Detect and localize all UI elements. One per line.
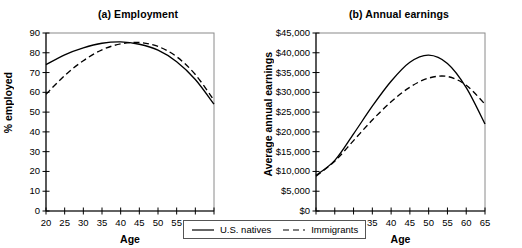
legend-entry-us-natives: U.S. natives (191, 225, 271, 235)
panel-b-y-tick-label: $30,000 (258, 88, 310, 98)
panel-b-y-tick-label: $45,000 (258, 28, 310, 38)
panel-a-x-tick-label: 45 (134, 218, 145, 228)
panel-b-x-tick-label: 60 (461, 218, 472, 228)
legend-entry-immigrants: Immigrants (282, 225, 358, 235)
panel-a-y-tick-label: 70 (0, 68, 40, 78)
panel-b-y-tick-label: $15,000 (258, 147, 310, 157)
panel-b-y-tick-label: $35,000 (258, 68, 310, 78)
panel-a-x-tick-label: 20 (41, 218, 52, 228)
legend-label-us-natives: U.S. natives (220, 225, 271, 235)
panel-a-y-tick-label: 30 (0, 147, 40, 157)
panel-a-y-tick-label: 60 (0, 88, 40, 98)
legend-label-immigrants: Immigrants (311, 225, 358, 235)
panel-a-y-tick-label: 40 (0, 127, 40, 137)
panel-a-y-tick-label: 0 (0, 206, 40, 216)
solid-line-swatch-icon (191, 226, 215, 234)
panel-a-y-tick-label: 90 (0, 28, 40, 38)
panel-a-x-tick-label: 35 (97, 218, 108, 228)
panel-b-x-tick-label: 45 (405, 218, 416, 228)
panel-b-x-tick-label: 55 (442, 218, 453, 228)
panel-a-series-line-1 (46, 42, 214, 104)
panel-a-x-tick-label: 55 (171, 218, 182, 228)
panel-b-y-tick-label: $20,000 (258, 127, 310, 137)
chart-panel-annual-earnings: (b) Annual earnings Average annual earni… (258, 0, 522, 215)
panel-a-x-tick-label: 40 (115, 218, 126, 228)
panel-b-x-tick-label: 35 (367, 218, 378, 228)
panel-a-y-tick-label: 10 (0, 186, 40, 196)
chart-legend: U.S. natives Immigrants (183, 220, 366, 239)
panel-b-x-tick-label: 50 (423, 218, 434, 228)
panel-a-x-tick-label: 30 (78, 218, 89, 228)
panel-a-y-tick-label: 80 (0, 48, 40, 58)
panel-b-y-tick-label: $0 (258, 206, 310, 216)
panel-b-x-tick-label: 40 (386, 218, 397, 228)
panel-b-y-tick-label: $5,000 (258, 186, 310, 196)
panel-b-series-line-2 (316, 76, 485, 176)
panel-b-y-tick-label: $40,000 (258, 48, 310, 58)
panel-a-x-tick-label: 50 (153, 218, 164, 228)
panel-a-series-line-2 (46, 42, 214, 100)
panel-a-y-tick-label: 20 (0, 167, 40, 177)
dashed-line-swatch-icon (282, 226, 306, 234)
chart-panel-employment: (a) Employment % employed 01020304050607… (0, 0, 258, 215)
panel-a-y-tick-label: 50 (0, 107, 40, 117)
figure-two-panel-chart: (a) Employment % employed 01020304050607… (0, 0, 522, 248)
panel-b-series-line-1 (316, 55, 485, 175)
panel-b-y-tick-label: $25,000 (258, 107, 310, 117)
panel-a-x-tick-label: 25 (59, 218, 70, 228)
panel-b-x-tick-label: 65 (480, 218, 491, 228)
panel-b-y-tick-label: $10,000 (258, 167, 310, 177)
